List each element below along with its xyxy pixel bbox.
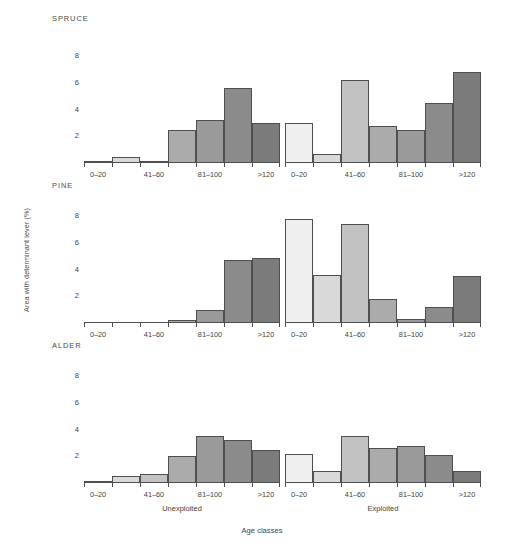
x-tick-mark xyxy=(84,323,85,327)
bar-101120 xyxy=(224,260,252,323)
x-tick-mark xyxy=(252,163,253,167)
figure-root: Area with determinant lever (%) Age clas… xyxy=(0,0,524,550)
x-axis-line xyxy=(285,162,481,163)
y-axis-label: Area with determinant lever (%) xyxy=(20,20,34,180)
panel-alder-exploited: 0–2041–6081–100>120Exploited xyxy=(285,363,481,483)
bar->120 xyxy=(252,123,280,163)
x-tick-label: 0–20 xyxy=(291,330,307,339)
y-tick-label: 6 xyxy=(75,399,79,407)
x-tick-mark xyxy=(369,323,370,327)
y-tick-label: 6 xyxy=(75,79,79,87)
bar->120 xyxy=(453,72,481,163)
x-tick-mark xyxy=(112,483,113,487)
bar-101120 xyxy=(425,307,453,323)
x-tick-mark xyxy=(480,323,481,327)
x-tick-label: 41–60 xyxy=(345,490,365,499)
x-tick-mark xyxy=(252,483,253,487)
x-tick-mark xyxy=(196,323,197,327)
bar-101120 xyxy=(224,440,252,483)
panel-column-label-exploited: Exploited xyxy=(285,504,481,513)
x-tick-label: >120 xyxy=(459,330,475,339)
x-axis-line xyxy=(285,482,481,483)
bar-4160 xyxy=(341,224,369,323)
x-tick-mark xyxy=(140,163,141,167)
x-tick-mark xyxy=(168,163,169,167)
x-axis-line xyxy=(84,162,280,163)
x-tick-mark xyxy=(112,163,113,167)
y-tick-label: 8 xyxy=(75,373,79,381)
x-tick-label: >120 xyxy=(258,170,274,179)
bar-81100 xyxy=(196,120,224,163)
x-tick-mark xyxy=(341,483,342,487)
panel-row-title-pine: PINE xyxy=(52,181,73,190)
x-tick-mark xyxy=(480,483,481,487)
x-tick-mark xyxy=(224,163,225,167)
x-tick-label: 81–100 xyxy=(198,330,222,339)
x-tick-mark xyxy=(397,483,398,487)
x-tick-mark xyxy=(224,483,225,487)
x-tick-mark xyxy=(196,483,197,487)
x-tick-label: 0–20 xyxy=(291,490,307,499)
x-tick-label: 81–100 xyxy=(399,330,423,339)
bar-101120 xyxy=(224,88,252,163)
plot-area: 0–2041–6081–100>120 xyxy=(84,43,280,163)
y-tick-label: 2 xyxy=(75,453,79,461)
x-tick-mark xyxy=(397,323,398,327)
x-tick-mark xyxy=(285,323,286,327)
x-tick-label: 41–60 xyxy=(345,330,365,339)
x-tick-mark xyxy=(425,323,426,327)
x-tick-mark xyxy=(279,163,280,167)
plot-area: 0–2041–6081–100>120 xyxy=(84,203,280,323)
bar-6180 xyxy=(168,456,196,483)
x-tick-label: >120 xyxy=(459,170,475,179)
x-tick-mark xyxy=(341,163,342,167)
bar-6180 xyxy=(369,299,397,323)
x-tick-label: >120 xyxy=(459,490,475,499)
x-axis-label: Age classes xyxy=(0,526,524,535)
bar-2140 xyxy=(313,275,341,323)
y-tick-label: 2 xyxy=(75,133,79,141)
x-tick-mark xyxy=(425,483,426,487)
x-tick-mark xyxy=(112,323,113,327)
x-tick-mark xyxy=(453,163,454,167)
y-tick-label: 4 xyxy=(75,426,79,434)
bar-4160 xyxy=(341,436,369,483)
x-tick-mark xyxy=(196,163,197,167)
plot-area: 0–2041–6081–100>120Unexploited xyxy=(84,363,280,483)
x-tick-label: 0–20 xyxy=(291,170,307,179)
x-tick-mark xyxy=(140,323,141,327)
x-tick-label: 41–60 xyxy=(144,170,164,179)
x-tick-mark xyxy=(453,483,454,487)
x-tick-label: 81–100 xyxy=(399,170,423,179)
x-tick-mark xyxy=(168,483,169,487)
x-axis-line xyxy=(84,322,280,323)
bar-020 xyxy=(285,219,313,323)
bar-4160 xyxy=(341,80,369,163)
bar-101120 xyxy=(425,455,453,483)
panel-row-title-spruce: SPRUCE xyxy=(52,14,89,23)
x-tick-mark xyxy=(285,163,286,167)
x-tick-label: 41–60 xyxy=(144,490,164,499)
x-tick-mark xyxy=(279,323,280,327)
panel-row-title-alder: ALDER xyxy=(52,341,82,350)
bar->120 xyxy=(453,276,481,323)
x-axis-line xyxy=(285,322,481,323)
y-tick-label: 8 xyxy=(75,53,79,61)
x-tick-mark xyxy=(285,483,286,487)
x-tick-mark xyxy=(84,163,85,167)
x-tick-label: 81–100 xyxy=(198,170,222,179)
panel-pine-exploited: 0–2041–6081–100>120 xyxy=(285,203,481,323)
plot-area: 0–2041–6081–100>120 xyxy=(285,43,481,163)
y-tick-label: 2 xyxy=(75,293,79,301)
y-tick-label: 8 xyxy=(75,213,79,221)
x-tick-label: 41–60 xyxy=(144,330,164,339)
y-tick-label: 6 xyxy=(75,239,79,247)
panel-spruce-unexploited: 24680–2041–6081–100>120 xyxy=(84,43,280,163)
x-axis-line xyxy=(84,482,280,483)
x-tick-mark xyxy=(425,163,426,167)
x-tick-label: 81–100 xyxy=(399,490,423,499)
x-tick-mark xyxy=(453,323,454,327)
x-tick-label: 0–20 xyxy=(90,490,106,499)
x-tick-label: 0–20 xyxy=(90,330,106,339)
panel-alder-unexploited: 24680–2041–6081–100>120Unexploited xyxy=(84,363,280,483)
